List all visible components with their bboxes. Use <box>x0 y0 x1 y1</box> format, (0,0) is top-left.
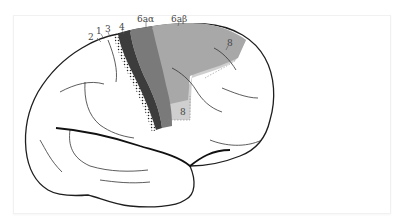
label-area-6a-beta: 6aβ <box>171 14 187 24</box>
label-area-6a-alpha: 6aα <box>137 14 154 24</box>
label-area-3: 3 <box>105 24 111 34</box>
label-area-1: 1 <box>96 26 102 36</box>
label-area-8-upper: 8 <box>227 38 233 48</box>
label-area-8-lower: 8 <box>180 107 186 117</box>
brain-diagram: 2 1 3 4 6aα 6aβ 8 8 <box>0 0 403 220</box>
label-area-4: 4 <box>119 22 125 32</box>
label-area-2: 2 <box>88 32 94 42</box>
